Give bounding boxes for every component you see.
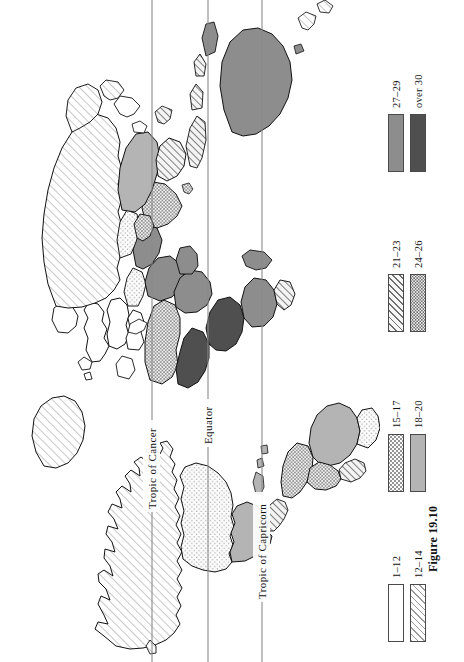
legend-label-24-26: 24–26 — [412, 188, 426, 268]
legend-group-3: 21–23 24–26 — [378, 212, 464, 362]
figure-caption: Figure 19.10 — [424, 452, 442, 572]
legend-label-27-29: 27–29 — [390, 28, 404, 108]
figure-caption-text: Figure 19.10 — [424, 452, 442, 572]
legend-label-18-20: 18–20 — [412, 348, 426, 428]
legend-group-1: 1–12 12–14 — [378, 522, 464, 662]
world-map-svg: Tropic of Cancer Equator Tropic of Capri… — [0, 0, 380, 662]
legend-group-4: 27–29 over 30 — [378, 52, 464, 202]
figure-container: Tropic of Cancer Equator Tropic of Capri… — [0, 0, 464, 662]
legend-label-15-17: 15–17 — [390, 348, 404, 428]
legend-pair: 27–29 over 30 — [382, 52, 460, 202]
legend-label-1-12: 1–12 — [390, 498, 404, 578]
legend-pair: 1–12 12–14 — [382, 522, 460, 662]
tropic-of-capricorn-label: Tropic of Capricorn — [256, 504, 268, 599]
legend-swatch-over-30[interactable] — [410, 114, 426, 172]
map-legend: 27–29 over 30 21–23 24–26 15–17 18–20 — [378, 0, 464, 662]
legend-swatch-27-29[interactable] — [388, 114, 404, 172]
equator-label: Equator — [202, 406, 214, 444]
legend-label-21-23: 21–23 — [390, 188, 404, 268]
legend-swatch-15-17[interactable] — [388, 434, 404, 492]
legend-pair: 21–23 24–26 — [382, 212, 460, 362]
region-central-europe — [107, 298, 129, 349]
legend-swatch-21-23[interactable] — [388, 274, 404, 332]
legend-swatch-12-14[interactable] — [410, 584, 426, 642]
legend-swatch-1-12[interactable] — [388, 584, 404, 642]
map-rotation-wrapper: Tropic of Cancer Equator Tropic of Capri… — [0, 0, 380, 662]
tropic-of-cancer-label: Tropic of Cancer — [146, 428, 158, 509]
legend-label-over-30: over 30 — [412, 28, 426, 108]
legend-swatch-24-26[interactable] — [410, 274, 426, 332]
map-panel: Tropic of Cancer Equator Tropic of Capri… — [0, 0, 380, 662]
